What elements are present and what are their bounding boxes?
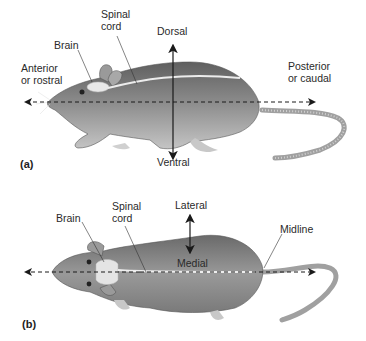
label-midline: Midline xyxy=(280,223,313,235)
body-b xyxy=(52,235,263,312)
label-anterior-line1: Anterior xyxy=(21,62,62,74)
brain-a xyxy=(87,82,109,92)
label-posterior-line2: or caudal xyxy=(288,72,331,84)
panel-tag-b: (b) xyxy=(22,318,36,330)
label-brain-b: Brain xyxy=(56,212,81,224)
label-dorsal: Dorsal xyxy=(157,25,187,37)
brain-b xyxy=(96,260,118,285)
midline-leader-b xyxy=(264,234,282,268)
label-posterior-line1: Posterior xyxy=(288,60,331,72)
body-a xyxy=(47,62,259,149)
label-posterior-caudal: Posterior or caudal xyxy=(288,60,331,84)
panel-tag-a: (a) xyxy=(20,158,33,170)
label-spinal-cord-b-line1: Spinal xyxy=(112,200,141,212)
tail-a xyxy=(262,110,344,158)
eye-a xyxy=(80,90,85,95)
label-spinal-cord-a-line1: Spinal xyxy=(101,8,130,20)
label-spinal-cord-a-line2: cord xyxy=(101,20,130,32)
label-spinal-cord-b-line2: cord xyxy=(112,212,141,224)
eye-b-top xyxy=(87,260,92,265)
label-anterior-line2: or rostral xyxy=(21,74,62,86)
label-medial: Medial xyxy=(177,257,208,269)
label-ventral: Ventral xyxy=(157,156,190,168)
label-brain-a: Brain xyxy=(54,39,79,51)
brain-leader-a xyxy=(78,50,92,82)
tail-b xyxy=(262,266,336,320)
label-lateral: Lateral xyxy=(175,199,207,211)
rat-anatomy-illustration xyxy=(0,0,366,341)
rat-top-view xyxy=(52,235,336,320)
label-spinal-cord-a: Spinal cord xyxy=(101,8,130,32)
eye-b-bottom xyxy=(87,282,92,287)
label-anterior-rostral: Anterior or rostral xyxy=(21,62,62,86)
label-spinal-cord-b: Spinal cord xyxy=(112,200,141,224)
